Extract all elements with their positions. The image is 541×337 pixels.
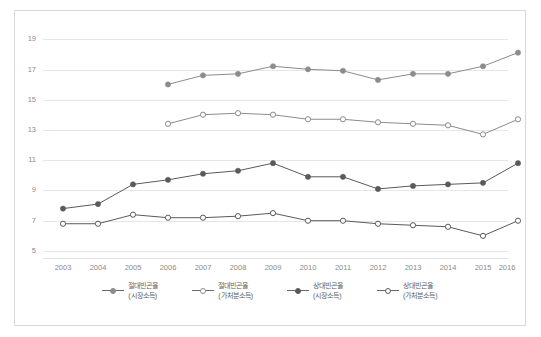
series-point-1	[445, 123, 450, 128]
series-point-1	[165, 121, 170, 126]
gridline-7	[43, 221, 508, 222]
series-point-0	[200, 73, 205, 78]
series-point-2	[445, 182, 450, 187]
y-axis-label-5: 5	[12, 247, 36, 255]
series-line-1	[168, 113, 518, 134]
legend-label-relative-market: 상대빈곤율 (시장소득)	[313, 281, 343, 300]
legend-label-relative-disposable: 상대빈곤율 (가처분소득)	[403, 281, 438, 300]
series-point-0	[165, 82, 170, 87]
series-point-2	[340, 174, 345, 179]
series-point-3	[235, 214, 240, 219]
y-axis-label-9: 9	[12, 186, 36, 194]
legend-label-absolute-disposable: 절대빈곤율 (가처분소득)	[218, 281, 253, 300]
series-point-0	[515, 50, 520, 55]
series-point-2	[235, 168, 240, 173]
series-point-2	[165, 177, 170, 182]
y-axis-label-13: 13	[12, 126, 36, 134]
series-point-1	[200, 112, 205, 117]
series-point-0	[235, 71, 240, 76]
series-point-0	[445, 71, 450, 76]
x-axis-separator	[43, 258, 508, 259]
series-point-2	[130, 182, 135, 187]
legend-item-absolute-market[interactable]: 절대빈곤율 (시장소득)	[102, 281, 158, 300]
x-axis-label-2011: 2011	[326, 263, 360, 272]
series-point-1	[235, 111, 240, 116]
series-line-3	[63, 213, 518, 236]
series-point-3	[480, 233, 485, 238]
gridline-5	[43, 251, 508, 252]
x-axis-label-2014: 2014	[431, 263, 465, 272]
series-point-3	[130, 212, 135, 217]
series-point-1	[270, 112, 275, 117]
series-point-3	[410, 223, 415, 228]
series-point-3	[515, 218, 520, 223]
gridline-9	[43, 190, 508, 191]
legend-item-relative-disposable[interactable]: 상대빈곤율 (가처분소득)	[377, 281, 438, 300]
series-point-0	[375, 77, 380, 82]
legend-marker-filled-circle-dark-icon	[287, 286, 309, 296]
x-axis-label-2005: 2005	[116, 263, 150, 272]
chart-legend: 절대빈곤율 (시장소득) 절대빈곤율 (가처분소득) 상대빈곤율 (시장소득) …	[14, 281, 526, 311]
series-point-2	[305, 174, 310, 179]
y-axis-label-17: 17	[12, 66, 36, 74]
series-point-2	[480, 180, 485, 185]
legend-marker-hollow-circle-dark-icon	[377, 286, 399, 296]
legend-item-absolute-disposable[interactable]: 절대빈곤율 (가처분소득)	[192, 281, 253, 300]
series-point-1	[410, 121, 415, 126]
series-point-1	[480, 132, 485, 137]
series-line-0	[168, 53, 518, 85]
x-axis-label-2009: 2009	[256, 263, 290, 272]
x-axis-label-2013: 2013	[396, 263, 430, 272]
gridline-19	[43, 39, 508, 40]
legend-marker-filled-circle-icon	[102, 286, 124, 296]
series-point-3	[200, 215, 205, 220]
series-point-2	[200, 171, 205, 176]
y-axis-label-11: 11	[12, 156, 36, 164]
series-point-0	[410, 71, 415, 76]
y-axis-label-19: 19	[12, 35, 36, 43]
x-axis-label-2016: 2016	[490, 263, 524, 272]
series-line-2	[63, 163, 518, 208]
series-point-1	[340, 117, 345, 122]
series-point-2	[60, 206, 65, 211]
series-point-2	[270, 161, 275, 166]
gridline-11	[43, 160, 508, 161]
x-axis-label-2010: 2010	[291, 263, 325, 272]
gridline-15	[43, 100, 508, 101]
x-axis-label-2007: 2007	[186, 263, 220, 272]
series-point-0	[270, 64, 275, 69]
series-point-1	[515, 117, 520, 122]
gridline-13	[43, 130, 508, 131]
legend-item-relative-market[interactable]: 상대빈곤율 (시장소득)	[287, 281, 343, 300]
series-point-1	[305, 117, 310, 122]
series-point-2	[95, 201, 100, 206]
series-point-2	[515, 161, 520, 166]
series-point-3	[445, 224, 450, 229]
gridline-17	[43, 70, 508, 71]
x-axis-label-2004: 2004	[81, 263, 115, 272]
series-point-0	[480, 64, 485, 69]
series-point-3	[270, 211, 275, 216]
legend-label-absolute-market: 절대빈곤율 (시장소득)	[128, 281, 158, 300]
series-point-2	[410, 183, 415, 188]
y-axis-label-15: 15	[12, 96, 36, 104]
x-axis-label-2008: 2008	[221, 263, 255, 272]
series-point-1	[375, 120, 380, 125]
x-axis-label-2012: 2012	[361, 263, 395, 272]
legend-marker-hollow-circle-icon	[192, 286, 214, 296]
series-point-3	[165, 215, 170, 220]
x-axis-label-2003: 2003	[46, 263, 80, 272]
x-axis-label-2006: 2006	[151, 263, 185, 272]
y-axis-label-7: 7	[12, 217, 36, 225]
